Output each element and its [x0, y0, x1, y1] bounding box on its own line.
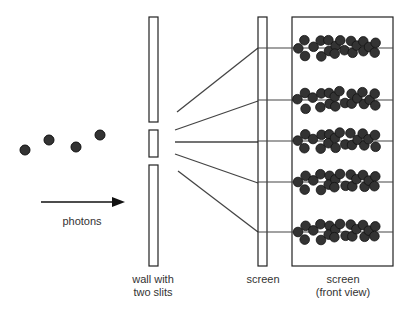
- arrow-head-icon: [112, 197, 125, 207]
- photon-direction-arrow: [41, 197, 125, 207]
- photon-hit-dot: [294, 44, 304, 54]
- photon-hit-dot: [331, 102, 341, 112]
- photon-hit-dot: [308, 93, 318, 103]
- photon-dot: [44, 135, 54, 145]
- photon-hit-dot: [370, 48, 380, 58]
- wall-with-two-slits: [149, 17, 158, 266]
- photon-hit-dot: [371, 222, 381, 232]
- ray-line: [177, 48, 258, 112]
- photon-hit-dot: [370, 181, 380, 191]
- photon-hit-dot: [331, 143, 341, 153]
- photon-dot: [20, 145, 30, 155]
- diffraction-rays: [175, 48, 258, 232]
- wall-label-line1: wall with: [131, 273, 174, 285]
- wall-segment: [149, 130, 158, 157]
- photon-hit-dot: [300, 185, 310, 195]
- screen-front-view: [258, 17, 393, 266]
- screen-label: screen: [246, 273, 279, 285]
- double-slit-diagram: photons wall with two slits screen scree…: [0, 0, 407, 311]
- photon-hit-dot: [370, 231, 380, 241]
- photons-label: photons: [62, 215, 102, 227]
- photon-hit-dot: [300, 51, 310, 61]
- photon-dot: [71, 142, 81, 152]
- photon-hit-dot: [308, 134, 318, 144]
- front-view-label-line2: (front view): [316, 286, 370, 298]
- photon-hit-dot: [371, 38, 381, 48]
- photon-hit-dot: [358, 87, 368, 97]
- wall-segment: [149, 17, 158, 122]
- photon-hit-dot: [300, 35, 310, 45]
- photon-hit-dot: [335, 219, 345, 229]
- diagram-svg: photons wall with two slits screen scree…: [0, 0, 407, 311]
- photon-hit-dot: [335, 128, 345, 138]
- photon-dot: [95, 130, 105, 140]
- photon-hit-dot: [371, 142, 381, 152]
- photon-hit-dot: [371, 172, 381, 182]
- wall-segment: [149, 165, 158, 266]
- ray-line: [175, 101, 258, 130]
- photon-hit-dot: [316, 219, 326, 229]
- front-view-label-line1: screen: [326, 273, 359, 285]
- photon-hit-dot: [330, 232, 340, 242]
- photon-hit-dot: [330, 49, 340, 59]
- photon-hit-dot: [316, 102, 326, 112]
- ray-line: [178, 171, 258, 232]
- photon-hit-dot: [300, 235, 310, 245]
- photon-hit-dot: [370, 89, 380, 99]
- photon-hit-dot: [301, 104, 311, 114]
- photon-hit-dot: [335, 169, 345, 179]
- photon-hit-dot: [371, 101, 381, 111]
- wall-label-line2: two slits: [133, 286, 173, 298]
- photon-hit-dot: [316, 169, 326, 179]
- photon-hit-dot: [335, 86, 345, 96]
- photon-hit-dot: [336, 36, 346, 46]
- photon-hit-dot: [300, 143, 310, 153]
- photon-hit-dot: [370, 130, 380, 140]
- incoming-photons: [20, 130, 105, 155]
- photon-hit-dot: [330, 182, 340, 192]
